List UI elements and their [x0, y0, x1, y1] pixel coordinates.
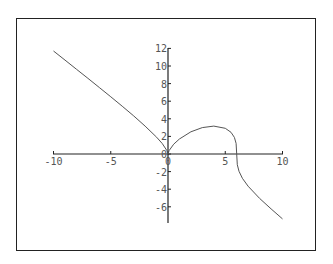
- y-tick-label: 4: [161, 114, 167, 125]
- tick-labels: -10-50510121086420-2-4-6: [44, 43, 288, 212]
- axes: [53, 48, 283, 223]
- x-tick-label: -10: [44, 156, 62, 167]
- y-tick-label: -6: [155, 202, 167, 213]
- x-tick-label: 5: [222, 156, 228, 167]
- y-tick-label: -4: [155, 184, 167, 195]
- x-tick-label: -5: [105, 156, 117, 167]
- y-tick-label: -2: [155, 167, 167, 178]
- x-tick-label: 10: [276, 156, 288, 167]
- y-tick-label: 2: [161, 131, 167, 142]
- y-tick-label: 6: [161, 96, 167, 107]
- plot-area: -10-50510121086420-2-4-6: [0, 0, 333, 264]
- y-tick-label: 8: [161, 79, 167, 90]
- y-tick-label: 10: [155, 61, 167, 72]
- y-tick-label: 0: [161, 149, 167, 160]
- y-tick-label: 12: [155, 43, 167, 54]
